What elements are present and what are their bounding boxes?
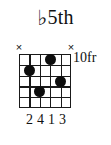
string-marker-row: × × [19, 42, 71, 54]
fretboard-grid [19, 54, 71, 108]
flat-accidental-icon: ♭ [37, 6, 47, 30]
chord-diagram-card: ♭5th × × 10fr 2 4 1 3 [0, 0, 111, 145]
finger-dot-string-4-fret-1 [45, 54, 56, 65]
fingering-number-string-5: 3 [56, 112, 70, 128]
chord-title: ♭5th [0, 6, 111, 29]
chord-title-text: 5th [47, 6, 73, 28]
string-line-2 [29, 54, 30, 108]
fret-line-4 [19, 97, 71, 98]
finger-dot-string-5-fret-3 [55, 76, 66, 87]
mute-x-icon-string-1: × [14, 42, 25, 53]
fret-line-3 [19, 86, 71, 87]
fret-position-label: 10fr [73, 50, 96, 66]
finger-dot-string-2-fret-2 [24, 65, 35, 76]
fingering-row: 2 4 1 3 [19, 112, 71, 130]
string-line-3 [40, 54, 41, 108]
